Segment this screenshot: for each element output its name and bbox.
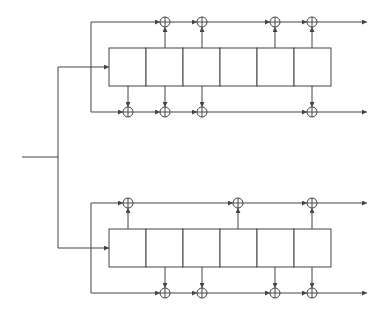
shift-register-cell: [183, 48, 220, 86]
shift-register-cell: [294, 229, 331, 267]
shift-register-cell: [146, 229, 183, 267]
shift-register-cell: [183, 229, 220, 267]
shift-register-cell: [257, 48, 294, 86]
shift-register-cell: [109, 48, 146, 86]
shift-register-cell: [109, 229, 146, 267]
shift-register-cell: [220, 229, 257, 267]
encoder-diagram: [0, 0, 386, 315]
shift-register-cell: [257, 229, 294, 267]
shift-register-cell: [220, 48, 257, 86]
shift-register-cell: [146, 48, 183, 86]
shift-register-cell: [294, 48, 331, 86]
